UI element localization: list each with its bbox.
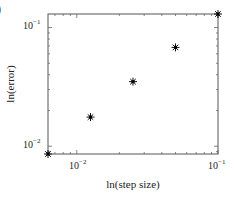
plot-area [0, 0, 234, 197]
data-points [44, 10, 222, 158]
asterisk-marker [172, 43, 180, 51]
asterisk-marker [87, 113, 95, 121]
asterisk-marker [44, 150, 52, 158]
asterisk-marker [129, 78, 137, 86]
asterisk-marker [214, 10, 222, 18]
